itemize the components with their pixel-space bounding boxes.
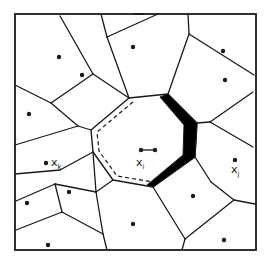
site-dot-s6 <box>27 112 31 116</box>
thick-boundary-wedge <box>147 94 197 187</box>
site-dot-s1 <box>57 55 61 59</box>
voronoi-edge <box>60 16 93 74</box>
label-xk: xk <box>51 156 63 171</box>
voronoi-diagram: xi xj xk <box>0 0 269 263</box>
frame-rect <box>15 14 256 250</box>
voronoi-edge <box>107 37 129 98</box>
voronoi-edge <box>189 34 254 75</box>
voronoi-edge <box>197 122 210 123</box>
site-dot-xj <box>233 158 237 162</box>
voronoi-edge <box>93 152 96 192</box>
site-dot-s9 <box>46 243 50 247</box>
voronoi-edge <box>195 157 211 182</box>
voronoi-edge <box>101 14 107 37</box>
voronoi-edge <box>60 152 93 170</box>
voronoi-edge <box>234 200 255 204</box>
voronoi-edge <box>55 184 96 192</box>
voronoi-edge <box>16 212 62 230</box>
voronoi-edge <box>182 239 185 250</box>
voronoi-edge <box>15 126 78 145</box>
voronoi-edge <box>210 122 253 147</box>
voronoi-edge <box>210 92 253 122</box>
voronoi-edge <box>16 184 55 201</box>
site-dot-s8 <box>25 201 29 205</box>
voronoi-edge <box>107 14 158 37</box>
xi-dot-start <box>139 148 143 152</box>
site-dot-s4 <box>221 49 225 53</box>
voronoi-edge <box>185 200 234 239</box>
generator-sites <box>25 45 237 247</box>
site-dot-xk <box>44 161 48 165</box>
site-dot-s11 <box>191 194 195 198</box>
voronoi-edge <box>51 74 93 103</box>
label-xi: xi <box>136 156 145 171</box>
site-dot-s3 <box>131 45 135 49</box>
voronoi-edge <box>51 103 78 126</box>
highlighted-boundary-region <box>147 94 197 187</box>
bounding-frame <box>15 14 256 250</box>
voronoi-edge <box>211 182 234 200</box>
site-dot-s7 <box>67 190 71 194</box>
xi-dot-end <box>153 148 157 152</box>
voronoi-edge <box>55 184 62 212</box>
site-xi-displacement-marker <box>139 148 157 152</box>
voronoi-edge <box>93 74 129 98</box>
voronoi-edge <box>96 180 113 192</box>
site-dot-s10 <box>131 222 135 226</box>
voronoi-edge <box>96 192 103 234</box>
voronoi-edge <box>168 34 189 94</box>
voronoi-edge <box>15 170 60 174</box>
voronoi-edge <box>62 212 103 234</box>
voronoi-edge <box>188 14 189 34</box>
voronoi-edges <box>15 14 255 250</box>
voronoi-edge <box>15 85 51 103</box>
voronoi-edge <box>153 187 185 239</box>
site-dot-s12 <box>222 238 226 242</box>
site-dot-s2 <box>80 73 84 77</box>
voronoi-edge <box>103 234 107 250</box>
label-xj: xj <box>231 163 240 178</box>
voronoi-edge <box>78 126 91 130</box>
site-dot-s5 <box>223 78 227 82</box>
